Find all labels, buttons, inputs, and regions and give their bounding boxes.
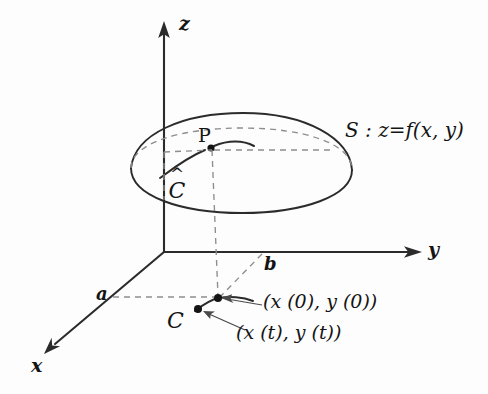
coord-initial-label: (x (0), y (0)) — [263, 292, 377, 311]
z-axis-label: z — [179, 14, 190, 33]
y-axis-label: y — [428, 240, 439, 259]
param-b-label: b — [264, 255, 277, 273]
param-a-label: a — [96, 285, 108, 303]
figure-canvas: z y x S : z=f(x, y) P ^ C C a b (x (0), … — [0, 0, 488, 394]
x-axis-arrowhead — [44, 338, 60, 354]
leader-arrowhead-x0y0 — [221, 294, 234, 303]
b-projection-guide — [220, 254, 262, 297]
point-p-label: P — [198, 126, 211, 145]
chat-base-letter: C — [166, 180, 188, 202]
point-xtyt-marker — [194, 305, 202, 313]
plane-curve-c-label: C — [167, 310, 184, 332]
surface-equation-label: S : z=f(x, y) — [345, 120, 464, 140]
lifted-curve-chat-label: ^ C — [166, 169, 188, 202]
x-axis-label: x — [31, 356, 42, 375]
point-x0y0-marker — [214, 294, 222, 302]
x-axis-line — [55, 252, 164, 344]
leader-arrowhead-xtyt — [203, 311, 215, 319]
vertical-drop-from-p — [212, 150, 218, 296]
coord-time-t-label: (x (t), y (t)) — [236, 323, 341, 342]
lifted-curve-chat-tail — [214, 142, 254, 147]
guide-lines-group — [113, 150, 330, 297]
